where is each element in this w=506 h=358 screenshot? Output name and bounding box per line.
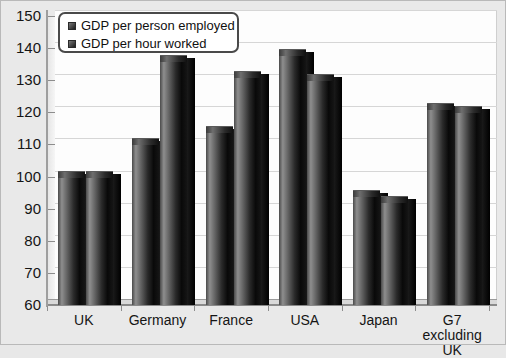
plot-side-wall bbox=[47, 16, 55, 305]
bar-top-cap bbox=[86, 171, 113, 178]
bar-top-cap bbox=[353, 190, 380, 197]
x-axis-label: Germany bbox=[121, 313, 195, 328]
bar bbox=[455, 112, 482, 305]
y-axis-label: 90 bbox=[0, 201, 41, 216]
y-axis-tick bbox=[48, 273, 55, 274]
legend-item-label: GDP per person employed bbox=[81, 18, 235, 33]
legend-item-label: GDP per hour worked bbox=[81, 36, 207, 51]
y-axis-tick bbox=[48, 144, 55, 145]
legend-swatch-icon bbox=[68, 40, 76, 48]
x-axis-label: USA bbox=[268, 313, 342, 328]
x-axis-tick bbox=[47, 306, 48, 311]
legend-item: GDP per person employed bbox=[68, 17, 237, 34]
bar bbox=[279, 55, 306, 305]
chart-legend: GDP per person employed GDP per hour wor… bbox=[58, 12, 239, 53]
y-axis-label: 120 bbox=[0, 104, 41, 119]
bar-top-cap bbox=[279, 49, 306, 56]
bar-side-face bbox=[334, 77, 342, 305]
legend-item: GDP per hour worked bbox=[68, 35, 237, 52]
y-axis-label: 70 bbox=[0, 265, 41, 280]
gridline bbox=[55, 74, 497, 75]
y-axis-tick bbox=[48, 48, 55, 49]
y-axis-label: 130 bbox=[0, 72, 41, 87]
y-axis-tick bbox=[48, 80, 55, 81]
x-axis-label: France bbox=[194, 313, 268, 328]
y-axis-label: 140 bbox=[0, 40, 41, 55]
y-axis-line bbox=[46, 10, 48, 307]
x-axis-tick bbox=[268, 306, 269, 311]
y-axis-tick bbox=[48, 177, 55, 178]
x-axis-tick bbox=[415, 306, 416, 311]
bar bbox=[427, 109, 454, 305]
bar-top-cap bbox=[427, 103, 454, 110]
y-axis-tick bbox=[48, 112, 55, 113]
bar bbox=[353, 196, 380, 305]
bar bbox=[86, 177, 113, 305]
y-axis-label: 60 bbox=[0, 297, 41, 312]
x-axis-label: G7 excluding UK bbox=[415, 313, 489, 358]
bar bbox=[206, 132, 233, 305]
bar-top-cap bbox=[455, 106, 482, 113]
bar-side-face bbox=[482, 109, 490, 305]
y-axis-label: 80 bbox=[0, 233, 41, 248]
y-axis-tick bbox=[48, 241, 55, 242]
bar-top-cap bbox=[234, 71, 261, 78]
bar bbox=[381, 202, 408, 305]
y-axis-tick bbox=[48, 209, 55, 210]
bar bbox=[234, 77, 261, 305]
y-axis-tick bbox=[48, 16, 55, 17]
y-axis-tick bbox=[48, 305, 55, 306]
y-axis-label: 150 bbox=[0, 8, 41, 23]
bar-top-cap bbox=[132, 138, 159, 145]
bar-side-face bbox=[408, 199, 416, 305]
bar-top-cap bbox=[160, 55, 187, 62]
bar bbox=[307, 80, 334, 305]
bar-top-cap bbox=[206, 126, 233, 133]
bar bbox=[132, 144, 159, 305]
bar-top-cap bbox=[381, 196, 408, 203]
bar-side-face bbox=[261, 74, 269, 305]
x-axis-label: UK bbox=[47, 313, 121, 328]
x-axis-tick bbox=[194, 306, 195, 311]
bar-top-cap bbox=[58, 171, 85, 178]
x-axis-tick bbox=[489, 306, 490, 311]
bar-side-face bbox=[113, 174, 121, 305]
gridline bbox=[55, 10, 497, 11]
bar-side-face bbox=[187, 58, 195, 305]
y-axis-label: 100 bbox=[0, 169, 41, 184]
bar bbox=[160, 61, 187, 305]
legend-swatch-icon bbox=[68, 22, 76, 30]
x-axis-label: Japan bbox=[342, 313, 416, 328]
bar-top-cap bbox=[307, 74, 334, 81]
x-axis-tick bbox=[342, 306, 343, 311]
x-axis-tick bbox=[121, 306, 122, 311]
bar bbox=[58, 177, 85, 305]
y-axis-label: 110 bbox=[0, 136, 41, 151]
